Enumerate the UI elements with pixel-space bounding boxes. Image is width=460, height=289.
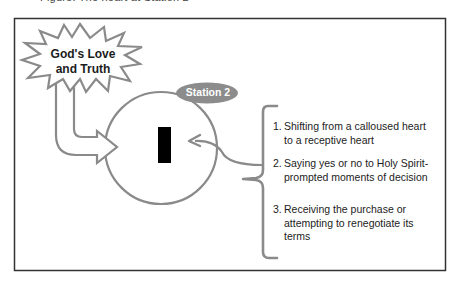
- item-number: 3.: [273, 203, 284, 244]
- item-number: 2.: [273, 157, 284, 184]
- item-text: Saying yes or no to Holy Spirit-prompted…: [284, 157, 433, 184]
- list-item: 1. Shifting from a calloused heart to a …: [273, 120, 433, 147]
- station-badge: Station 2: [177, 86, 239, 98]
- item-text: Receiving the purchase or attempting to …: [284, 203, 433, 244]
- center-marker-bar: [158, 127, 171, 163]
- list-item: 3. Receiving the purchase or attempting …: [273, 203, 433, 244]
- starburst-label: God's Love and Truth: [40, 47, 126, 77]
- item-number: 1.: [273, 120, 284, 147]
- cut-off-caption: Figure: The heart at Station 2: [40, 0, 420, 3]
- item-text: Shifting from a calloused heart to a rec…: [284, 120, 433, 147]
- starburst-label-line2: and Truth: [40, 62, 126, 77]
- list-item: 2. Saying yes or no to Holy Spirit-promp…: [273, 157, 433, 184]
- starburst-label-line1: God's Love: [40, 47, 126, 62]
